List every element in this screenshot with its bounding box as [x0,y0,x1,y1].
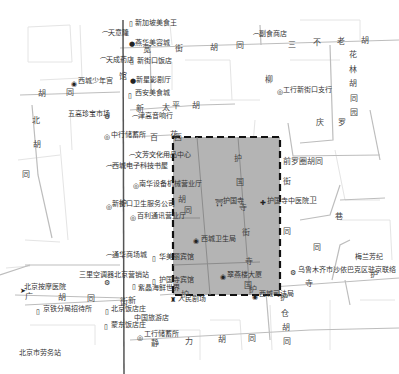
road-label: 柳 [265,75,273,84]
poi-label[interactable]: 西安美食城 [135,89,170,97]
road-label: 护 [234,154,242,163]
road-label: 护 [181,290,189,299]
road-label: 百 [150,133,158,142]
poi-label[interactable]: 蒙东饭店庄 [111,321,146,329]
shop-icon: ▯ [104,323,108,331]
poi-label[interactable]: 工行新街口支行 [283,86,332,94]
road-label: 前罗圈胡同 [283,157,323,166]
road-label: 同 [283,227,291,236]
road-label: 寺 [239,203,247,212]
road-label: 卫 [309,196,317,205]
poi-label[interactable]: 中行储蓄所 [111,131,146,139]
shop-icon: ▯ [36,308,40,316]
poi-label[interactable]: 西城卫生局 [201,235,236,243]
road-label: 仓 [281,309,289,318]
poi-label[interactable]: 新加坡美食王 [135,19,177,27]
road-label: 胡 [218,335,226,344]
road-label: 庆 [316,118,324,127]
road-label: 街 [175,44,183,53]
bank-icon: ◎ [130,214,136,222]
poi-label[interactable]: 副食商店 [259,30,287,38]
poi-label[interactable]: 紫晶海鲜世界 [138,284,180,292]
poi-label[interactable]: 护国寺中医院 [267,197,309,205]
road-label: 静 [151,339,159,348]
road-label: 胡 [178,195,186,204]
circle-dot-icon: ◉ [71,80,77,88]
poi-label[interactable]: 乌鲁木齐市沙依巴克区驻京联络 [298,266,396,274]
poi-label[interactable]: 通华商场城 [112,251,147,259]
poi-label[interactable]: 北京市劳务站 [19,349,61,357]
road-label: 老 [337,37,345,46]
road-label: 同 [248,334,256,343]
map-canvas[interactable]: ▯ 新加坡美食王 ⌒ 天意隆 ● 燕华美容城 ⌒ 天成药店 ▯ 新街口饭店 ◉ … [0,0,399,374]
shop-icon: ▯ [105,308,109,316]
poi-label[interactable]: 新街口饭店 [137,57,172,65]
road-label: 宽 [143,45,151,54]
poi-label[interactable]: 三里空调器北京营销站 [79,271,149,279]
poi-label[interactable]: 天意隆 [108,29,129,37]
poi-label[interactable]: 翠燕楼大厦 [227,271,262,279]
poi-label[interactable]: 工行储蓄所 [144,330,179,338]
road-label: 三 [288,40,296,49]
poi-label[interactable]: 西城司法局 [259,290,294,298]
poi-label[interactable]: 南华设备机械营业厅 [139,180,202,188]
poi-label[interactable]: 百利通讯营业厅 [137,212,186,220]
road-label: 护 [249,285,257,294]
road-label: 平 [172,101,180,110]
gear-icon: ⚙ [104,113,110,121]
road-label: 新 [128,296,136,305]
poi-label[interactable]: 北京按摩医院 [24,283,66,291]
road-label: 胡 [58,293,66,302]
road-label: 同 [184,206,192,215]
road-label: 北 [32,116,40,125]
road-label: 胡 [282,323,290,332]
circle-dot-icon: ◉ [193,237,199,245]
road-label: 护 [370,270,378,279]
road-label: 街 [242,228,250,237]
shop-icon: ▯ [129,20,133,28]
shop-icon: ▯ [152,255,156,263]
road-label: 同 [236,41,244,50]
road-label: 街 [120,297,128,306]
road-label: 胡 [33,140,41,149]
road-label: 太 [162,103,170,112]
road-label: 巷 [335,212,343,221]
poi-label[interactable]: 西城少年宫 [78,77,113,85]
road-label: 广 [25,292,33,301]
poi-label[interactable]: 文芳文化用品中心 [135,151,191,159]
road-label: 同 [350,94,358,103]
poi-label[interactable]: 华美丽宾馆 [159,253,194,261]
road-label: 街 [283,177,291,186]
poi-label[interactable]: 京铁分局招待所 [43,305,92,313]
poi-label[interactable]: 新星影剧厅 [136,76,171,84]
shop-icon: ▯ [132,283,136,291]
circle-dot-icon: ◉ [220,273,226,281]
poi-label[interactable]: 北京饭店庄 [111,305,146,313]
poi-label[interactable]: 梅兰芳纪 [355,253,383,261]
road-label: 胡 [38,89,46,98]
road-label: 护 [119,199,127,208]
road-label: 同 [313,243,321,252]
road-label: 胡 [192,101,200,110]
gear-icon: ⚙ [104,279,110,287]
road-label: 寺 [245,257,253,266]
road-label: 同 [66,88,74,97]
road-label: 胡 [210,43,218,52]
road-label: 馆 [119,72,127,81]
road-label: 林 [349,65,357,74]
poi-label[interactable]: 护国寺宾馆 [159,276,194,284]
bank-icon: ◎ [137,334,143,342]
road-label: 罗 [338,118,346,127]
poi-label[interactable]: 西城电子科技书屋 [112,162,168,170]
hospital-icon: ✚ [260,199,266,207]
road-label: 国 [236,178,244,187]
road-label: 力 [185,337,193,346]
poi-label[interactable]: 津高音响行 [138,112,173,120]
road-label: 新 [136,104,144,113]
gear-icon: ⚙ [290,269,296,277]
shop-icon: ▯ [130,58,134,66]
road-label: 寺 [305,279,313,288]
poi-label[interactable]: 燕华美容城 [135,39,170,47]
circle-dot-icon: ◉ [252,293,258,301]
road-label: 胡 [361,36,369,45]
